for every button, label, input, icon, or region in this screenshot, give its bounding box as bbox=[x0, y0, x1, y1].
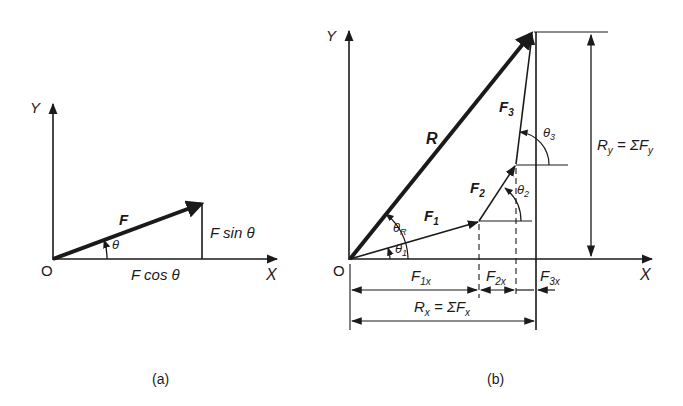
f2x-label: F2x bbox=[486, 267, 507, 287]
f-cos-label: F cos θ bbox=[131, 266, 180, 283]
theta-arc-a bbox=[104, 240, 107, 259]
f3-label: F3 bbox=[499, 98, 514, 118]
svg-text:θ2: θ2 bbox=[517, 182, 529, 199]
svg-text:Ry = ΣFy: Ry = ΣFy bbox=[597, 136, 654, 156]
theta-2-label: θ2 bbox=[517, 182, 529, 199]
y-axis-label-a: Y bbox=[30, 99, 41, 116]
svg-text:F1x: F1x bbox=[411, 267, 432, 287]
svg-text:θR: θR bbox=[393, 220, 407, 237]
resultant-r-label: R bbox=[426, 130, 438, 147]
theta-3-label: θ3 bbox=[543, 125, 555, 142]
vector-f-label: F bbox=[119, 211, 129, 228]
svg-text:θ3: θ3 bbox=[543, 125, 555, 142]
svg-text:F1: F1 bbox=[424, 207, 439, 227]
vector-f1 bbox=[350, 222, 478, 259]
vector-resolution-figure: Y O X F θ F cos θ F sin θ (a) bbox=[0, 0, 683, 406]
x-axis-label-b: X bbox=[639, 266, 652, 283]
f1x-label: F1x bbox=[411, 267, 432, 287]
f-sin-label: F sin θ bbox=[210, 224, 255, 241]
svg-text:Rx = ΣFx: Rx = ΣFx bbox=[414, 298, 471, 318]
origin-label-b: O bbox=[333, 262, 345, 279]
svg-text:F2x: F2x bbox=[486, 267, 507, 287]
rx-label: Rx = ΣFx bbox=[414, 298, 471, 318]
ry-label: Ry = ΣFy bbox=[597, 136, 654, 156]
svg-text:F3x: F3x bbox=[540, 267, 561, 287]
theta-1-arc bbox=[388, 248, 390, 259]
f1-label: F1 bbox=[424, 207, 439, 227]
theta-label-a: θ bbox=[112, 237, 119, 252]
vector-f3 bbox=[516, 35, 532, 164]
svg-text:F3: F3 bbox=[499, 98, 514, 118]
f3x-label: F3x bbox=[540, 267, 561, 287]
theta-r-label: θR bbox=[393, 220, 407, 237]
caption-b: (b) bbox=[487, 371, 504, 387]
y-axis-label-b: Y bbox=[326, 27, 337, 44]
x-axis-label-a: X bbox=[265, 266, 278, 283]
origin-label-a: O bbox=[41, 262, 53, 279]
f2-label: F2 bbox=[470, 179, 485, 199]
caption-a: (a) bbox=[152, 371, 169, 387]
resultant-r bbox=[350, 34, 531, 259]
svg-text:F2: F2 bbox=[470, 179, 485, 199]
